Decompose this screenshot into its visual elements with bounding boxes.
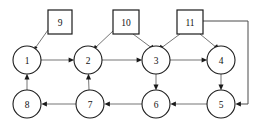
edge-2-to-3	[102, 57, 142, 62]
square-node-10[interactable]: 10	[113, 10, 139, 34]
circle-node-layer: 1 2 3 4 5 6	[13, 46, 235, 118]
square-node-layer: 9 10 11	[48, 10, 203, 34]
square-node-9[interactable]: 9	[48, 10, 72, 34]
circle-node-6[interactable]: 6	[142, 90, 170, 118]
edge-6-to-7	[104, 101, 142, 106]
circle-node-2[interactable]: 2	[74, 46, 102, 74]
circle-node-1[interactable]: 1	[13, 46, 41, 74]
circle-node-3[interactable]: 3	[142, 46, 170, 74]
graph-svg: 9 10 11 1 2 3	[0, 0, 259, 124]
edge-5-to-6	[170, 101, 207, 106]
edge-3-to-6	[154, 74, 159, 90]
square-node-11[interactable]: 11	[177, 10, 203, 34]
edge-8-to-1	[25, 74, 30, 90]
circle-node-4[interactable]: 4	[207, 46, 235, 74]
diagram-canvas: 9 10 11 1 2 3	[0, 0, 259, 124]
edge-3-to-4	[170, 57, 207, 62]
edge-1-to-2	[41, 57, 74, 62]
edge-7-to-8	[41, 101, 76, 106]
circle-node-5[interactable]: 5	[207, 90, 235, 118]
circle-node-7[interactable]: 7	[76, 90, 104, 118]
edge-4-to-5	[219, 74, 224, 90]
edge-7-to-2	[86, 74, 91, 90]
circle-node-8[interactable]: 8	[13, 90, 41, 118]
